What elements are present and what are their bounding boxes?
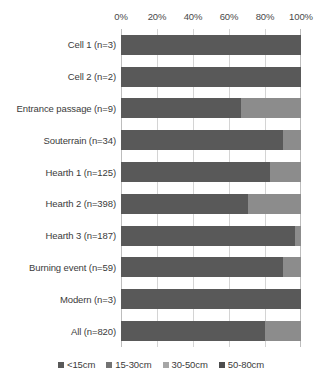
legend-label: 15-30cm (115, 359, 151, 370)
plot-area (121, 29, 301, 347)
x-axis-tick-labels: 0%20%40%60%80%100% (121, 11, 301, 27)
y-axis-label: Burning event (n=59) (29, 262, 116, 273)
bar-track (121, 194, 301, 214)
bar-segment (265, 321, 301, 341)
bar-row (121, 252, 301, 284)
y-axis-label-cell: Hearth 1 (n=125) (0, 156, 116, 188)
y-axis-label-cell: Cell 2 (n=2) (0, 61, 116, 93)
bar-segment (121, 194, 248, 214)
bar-row (121, 156, 301, 188)
bar-row (121, 124, 301, 156)
bar-segment (283, 257, 301, 277)
y-axis-label: Souterrain (n=34) (44, 135, 117, 146)
bar-row (121, 61, 301, 93)
bar-row (121, 315, 301, 347)
bar-segment (121, 98, 241, 118)
legend-label: <15cm (67, 359, 95, 370)
legend-item[interactable]: <15cm (58, 359, 95, 370)
y-axis-category-labels: Cell 1 (n=3)Cell 2 (n=2)Entrance passage… (0, 29, 116, 347)
stacked-bar-chart: 0%20%40%60%80%100% Cell 1 (n=3)Cell 2 (n… (0, 0, 322, 382)
bar-segment (283, 130, 301, 150)
bar-segment (241, 98, 301, 118)
bar-track (121, 257, 301, 277)
bar-track (121, 130, 301, 150)
bar-row (121, 220, 301, 252)
y-axis-label-cell: Souterrain (n=34) (0, 124, 116, 156)
bar-track (121, 321, 301, 341)
x-tick-label: 0% (114, 11, 128, 22)
legend-label: 30-50cm (172, 359, 208, 370)
bar-track (121, 289, 301, 309)
legend-item[interactable]: 50-80cm (219, 359, 264, 370)
y-axis-label-cell: Hearth 3 (n=187) (0, 220, 116, 252)
bar-track (121, 162, 301, 182)
legend-label: 50-80cm (228, 359, 264, 370)
y-axis-label-cell: Modern (n=3) (0, 283, 116, 315)
bar-row (121, 188, 301, 220)
bar-rows (121, 29, 301, 347)
bar-segment (121, 321, 265, 341)
y-axis-label: Cell 2 (n=2) (68, 71, 116, 82)
bar-segment (121, 289, 301, 309)
y-axis-label: Hearth 3 (n=187) (46, 230, 117, 241)
bar-track (121, 67, 301, 87)
bar-track (121, 226, 301, 246)
x-tick-label: 40% (184, 11, 203, 22)
bar-segment (121, 226, 295, 246)
bar-row (121, 93, 301, 125)
bar-segment (121, 257, 283, 277)
bar-segment (121, 130, 283, 150)
bar-row (121, 283, 301, 315)
square-swatch-icon (106, 362, 112, 368)
square-swatch-icon (163, 362, 169, 368)
x-tick-label: 80% (256, 11, 275, 22)
bar-row (121, 29, 301, 61)
legend-item[interactable]: 15-30cm (106, 359, 151, 370)
bar-segment (121, 67, 301, 87)
y-axis-label-cell: Cell 1 (n=3) (0, 29, 116, 61)
y-axis-label-cell: All (n=820) (0, 315, 116, 347)
bar-segment (270, 162, 302, 182)
bar-track (121, 35, 301, 55)
y-axis-label: Cell 1 (n=3) (68, 39, 116, 50)
bar-segment (121, 35, 301, 55)
square-swatch-icon (219, 362, 225, 368)
y-axis-label: Modern (n=3) (60, 294, 116, 305)
legend-item[interactable]: 30-50cm (163, 359, 208, 370)
chart-legend: <15cm15-30cm30-50cm50-80cm (0, 359, 322, 370)
bar-segment (295, 226, 301, 246)
x-tick-label: 20% (148, 11, 167, 22)
y-axis-label: All (n=820) (71, 326, 116, 337)
x-tick-label: 100% (289, 11, 313, 22)
y-axis-label-cell: Hearth 2 (n=398) (0, 188, 116, 220)
y-axis-label-cell: Burning event (n=59) (0, 252, 116, 284)
y-axis-label: Hearth 1 (n=125) (46, 167, 117, 178)
bar-track (121, 98, 301, 118)
x-tick-label: 60% (220, 11, 239, 22)
y-axis-label: Entrance passage (n=9) (17, 103, 116, 114)
bar-segment (121, 162, 270, 182)
y-axis-label: Hearth 2 (n=398) (46, 198, 117, 209)
bar-segment (248, 194, 301, 214)
y-axis-label-cell: Entrance passage (n=9) (0, 93, 116, 125)
square-swatch-icon (58, 362, 64, 368)
